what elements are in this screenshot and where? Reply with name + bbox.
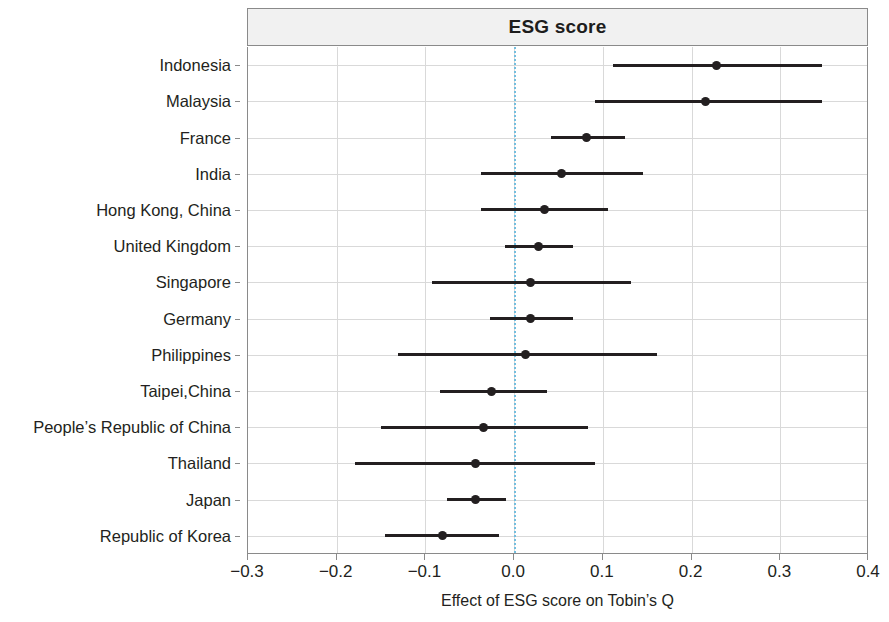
- point-estimate-marker: [557, 169, 566, 178]
- y-axis-tick-mark: [235, 319, 240, 320]
- confidence-interval-cap: [385, 534, 388, 537]
- confidence-interval-cap: [440, 390, 443, 393]
- gridline-vertical: [780, 47, 781, 553]
- x-axis-tick-mark: [424, 554, 425, 560]
- y-axis-tick-mark: [235, 427, 240, 428]
- interval-row: [248, 271, 867, 293]
- confidence-interval-cap: [481, 172, 484, 175]
- y-axis-tick-label: Republic of Korea: [100, 526, 231, 545]
- y-axis-tick-mark: [235, 500, 240, 501]
- x-axis-tick-mark: [691, 554, 692, 560]
- confidence-interval-cap: [605, 208, 608, 211]
- y-axis-tick-label: Taipei,China: [140, 382, 231, 401]
- interval-row: [248, 344, 867, 366]
- confidence-interval-cap: [622, 136, 625, 139]
- point-estimate-marker: [582, 133, 591, 142]
- y-axis-tick-label: France: [180, 128, 231, 147]
- point-estimate-marker: [471, 495, 480, 504]
- confidence-interval-cap: [819, 64, 822, 67]
- x-axis-tick-label: −0.1: [408, 562, 442, 582]
- gridline-vertical: [337, 47, 338, 553]
- y-axis-tick-mark: [235, 174, 240, 175]
- confidence-interval-cap: [592, 462, 595, 465]
- interval-row: [248, 452, 867, 474]
- x-axis-tick-labels: −0.3−0.2−0.10.00.10.20.30.4: [247, 562, 868, 586]
- confidence-interval-cap: [505, 245, 508, 248]
- confidence-interval-cap: [398, 353, 401, 356]
- interval-row: [248, 127, 867, 149]
- confidence-interval-cap: [481, 208, 484, 211]
- x-axis-ticks: [247, 554, 868, 560]
- y-axis-tick-label: Malaysia: [166, 92, 231, 111]
- x-axis-tick-label: 0.3: [767, 562, 791, 582]
- y-axis: IndonesiaMalaysiaFranceIndiaHong Kong, C…: [0, 47, 240, 554]
- x-axis-tick-mark: [602, 554, 603, 560]
- y-axis-tick-mark: [235, 101, 240, 102]
- point-estimate-marker: [471, 459, 480, 468]
- confidence-interval-cap: [355, 462, 358, 465]
- confidence-interval-cap: [640, 172, 643, 175]
- x-axis-tick-mark: [867, 554, 868, 560]
- y-axis-tick-mark: [235, 65, 240, 66]
- x-axis-tick-label: 0.1: [590, 562, 614, 582]
- y-axis-tick-label: Thailand: [168, 454, 231, 473]
- y-axis-tick-mark: [235, 355, 240, 356]
- plot-frame: [247, 47, 868, 554]
- point-estimate-marker: [479, 423, 488, 432]
- interval-row: [248, 525, 867, 547]
- y-axis-tick-mark: [235, 391, 240, 392]
- confidence-interval-cap: [585, 426, 588, 429]
- y-axis-tick-label: India: [195, 164, 231, 183]
- interval-row: [248, 489, 867, 511]
- interval-row: [248, 380, 867, 402]
- gridline-vertical: [692, 47, 693, 553]
- x-axis-tick-label: −0.2: [319, 562, 353, 582]
- point-estimate-marker: [487, 387, 496, 396]
- forest-plot-figure: ESG score IndonesiaMalaysiaFranceIndiaHo…: [0, 0, 889, 622]
- x-axis-tick-mark: [247, 554, 248, 560]
- y-axis-tick-label: People’s Republic of China: [33, 418, 231, 437]
- zero-reference-line: [514, 47, 516, 553]
- confidence-interval-cap: [570, 317, 573, 320]
- confidence-interval-cap: [432, 281, 435, 284]
- point-estimate-marker: [534, 242, 543, 251]
- x-axis-tick-label: 0.0: [501, 562, 525, 582]
- panel-title-bar: ESG score: [247, 8, 868, 46]
- point-estimate-marker: [526, 314, 535, 323]
- point-estimate-marker: [540, 205, 549, 214]
- x-axis-tick-label: 0.4: [856, 562, 880, 582]
- interval-row: [248, 163, 867, 185]
- interval-row: [248, 199, 867, 221]
- y-axis-tick-label: Germany: [163, 309, 231, 328]
- interval-row: [248, 308, 867, 330]
- interval-row: [248, 90, 867, 112]
- confidence-interval-cap: [544, 390, 547, 393]
- x-axis-title: Effect of ESG score on Tobin’s Q: [247, 592, 868, 610]
- confidence-interval-cap: [613, 64, 616, 67]
- x-axis-tick-label: 0.2: [679, 562, 703, 582]
- confidence-interval-cap: [570, 245, 573, 248]
- confidence-interval-cap: [819, 100, 822, 103]
- confidence-interval-cap: [628, 281, 631, 284]
- point-estimate-marker: [521, 350, 530, 359]
- confidence-interval-cap: [496, 534, 499, 537]
- point-estimate-marker: [438, 531, 447, 540]
- confidence-interval-cap: [490, 317, 493, 320]
- confidence-interval-cap: [503, 498, 506, 501]
- y-axis-tick-label: United Kingdom: [114, 237, 231, 256]
- x-axis-tick-mark: [513, 554, 514, 560]
- x-axis-tick-mark: [779, 554, 780, 560]
- y-axis-tick-label: Philippines: [151, 345, 231, 364]
- y-axis-tick-mark: [235, 282, 240, 283]
- confidence-interval-cap: [381, 426, 384, 429]
- point-estimate-marker: [712, 61, 721, 70]
- x-axis-tick-mark: [336, 554, 337, 560]
- point-estimate-marker: [526, 278, 535, 287]
- x-axis-tick-label: −0.3: [230, 562, 264, 582]
- y-axis-tick-label: Singapore: [156, 273, 231, 292]
- panel-title: ESG score: [509, 16, 607, 38]
- y-axis-tick-mark: [235, 210, 240, 211]
- confidence-interval-cap: [654, 353, 657, 356]
- gridline-vertical: [603, 47, 604, 553]
- plot-area: [248, 47, 867, 553]
